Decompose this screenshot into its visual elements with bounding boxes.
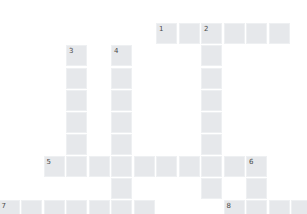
clue-number: 6: [249, 158, 253, 166]
crossword-cell[interactable]: [291, 200, 307, 214]
crossword-cell[interactable]: [224, 156, 245, 177]
crossword-cell[interactable]: [111, 156, 132, 177]
crossword-cell[interactable]: [134, 156, 155, 177]
crossword-cell[interactable]: [246, 23, 267, 44]
crossword-cell[interactable]: [66, 156, 87, 177]
crossword-cell[interactable]: [66, 68, 87, 89]
crossword-cell[interactable]: [269, 23, 290, 44]
crossword-cell[interactable]: [21, 200, 42, 214]
crossword-cell[interactable]: [224, 23, 245, 44]
crossword-cell[interactable]: 8: [224, 200, 245, 214]
clue-number: 4: [114, 47, 118, 55]
crossword-grid: 12345678: [0, 0, 307, 214]
crossword-cell[interactable]: 6: [246, 156, 267, 177]
crossword-cell[interactable]: [44, 200, 65, 214]
crossword-cell[interactable]: [246, 200, 267, 214]
crossword-cell[interactable]: 1: [156, 23, 177, 44]
crossword-cell[interactable]: [111, 112, 132, 133]
crossword-cell[interactable]: [66, 200, 87, 214]
clue-number: 1: [159, 25, 163, 33]
clue-number: 5: [47, 158, 51, 166]
crossword-cell[interactable]: [201, 90, 222, 111]
crossword-cell[interactable]: [111, 134, 132, 155]
clue-number: 2: [204, 25, 208, 33]
crossword-cell[interactable]: [111, 90, 132, 111]
crossword-cell[interactable]: 5: [44, 156, 65, 177]
crossword-cell[interactable]: [156, 156, 177, 177]
crossword-cell[interactable]: [269, 200, 290, 214]
clue-number: 8: [227, 202, 231, 210]
crossword-cell[interactable]: [134, 200, 155, 214]
crossword-cell[interactable]: [201, 45, 222, 66]
clue-number: 3: [69, 47, 73, 55]
crossword-cell[interactable]: 3: [66, 45, 87, 66]
crossword-cell[interactable]: 2: [201, 23, 222, 44]
crossword-cell[interactable]: [201, 156, 222, 177]
crossword-cell[interactable]: 4: [111, 45, 132, 66]
crossword-cell[interactable]: [111, 68, 132, 89]
crossword-cell[interactable]: [66, 90, 87, 111]
crossword-cell[interactable]: [111, 200, 132, 214]
crossword-cell[interactable]: [201, 178, 222, 199]
crossword-cell[interactable]: [66, 112, 87, 133]
crossword-cell[interactable]: [201, 68, 222, 89]
crossword-cell[interactable]: [66, 134, 87, 155]
crossword-cell[interactable]: [201, 134, 222, 155]
clue-number: 7: [2, 202, 6, 210]
crossword-cell[interactable]: [89, 200, 110, 214]
crossword-cell[interactable]: [246, 178, 267, 199]
crossword-cell[interactable]: [89, 156, 110, 177]
crossword-cell[interactable]: [179, 23, 200, 44]
crossword-cell[interactable]: [111, 178, 132, 199]
crossword-cell[interactable]: 7: [0, 200, 20, 214]
crossword-cell[interactable]: [179, 156, 200, 177]
crossword-cell[interactable]: [201, 112, 222, 133]
